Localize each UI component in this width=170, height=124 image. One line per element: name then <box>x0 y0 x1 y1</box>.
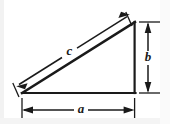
dimension-a-arrow-left <box>22 107 33 114</box>
dimension-c-arrow-lower-left <box>16 83 27 89</box>
right-triangle-outline <box>22 22 136 93</box>
dimension-a-label: a <box>78 101 85 116</box>
dimension-a-arrow-right <box>124 107 135 114</box>
triangle-side-c <box>22 22 135 93</box>
triangle-figure: a b c <box>0 0 170 124</box>
dimension-c-label: c <box>67 43 73 58</box>
triangle-diagram-canvas: a b c <box>0 0 170 124</box>
dimension-c <box>13 12 132 97</box>
dimension-c-extension-left <box>13 83 19 97</box>
dimension-b-arrow-top <box>145 22 152 33</box>
dimension-b-label: b <box>145 49 152 64</box>
dimension-b-arrow-bottom <box>145 82 152 93</box>
